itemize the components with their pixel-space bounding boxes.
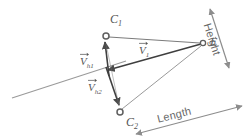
point-marker-c1 <box>103 33 109 39</box>
label-vector-vh2-sub: h2 <box>95 88 102 96</box>
diagram-canvas <box>0 0 248 140</box>
label-point-c2-base: C <box>126 115 134 129</box>
vector-vh2-line <box>106 67 119 105</box>
label-point-c2-sub: 2 <box>134 122 138 131</box>
point-marker-e <box>200 40 205 45</box>
label-point-c1-base: C <box>110 12 118 26</box>
label-vector-vh2-base: V <box>88 81 95 93</box>
label-point-c1-sub: 1 <box>118 19 122 28</box>
vector-diagram-figure: C1 C2 E V1 Vh1 Vh2 <box>0 0 248 140</box>
point-marker-c2 <box>117 109 123 115</box>
label-point-c2: C2 <box>126 116 138 131</box>
overarrow-icon <box>80 52 89 56</box>
label-vector-vh1-base: V <box>80 55 87 67</box>
ray-c1-to-e <box>109 37 200 43</box>
label-vector-v1-base: V <box>139 44 146 56</box>
epipolar-plane-line <box>12 61 126 98</box>
overarrow-icon <box>139 41 148 45</box>
label-vector-v1-sub: 1 <box>146 51 150 59</box>
label-vector-vh1: Vh1 <box>80 56 94 70</box>
overarrow-icon <box>88 78 97 82</box>
label-point-c1: C1 <box>110 13 122 28</box>
label-vector-v1: V1 <box>139 45 149 59</box>
label-vector-vh2: Vh2 <box>88 82 102 96</box>
label-vector-vh1-sub: h1 <box>87 62 94 70</box>
